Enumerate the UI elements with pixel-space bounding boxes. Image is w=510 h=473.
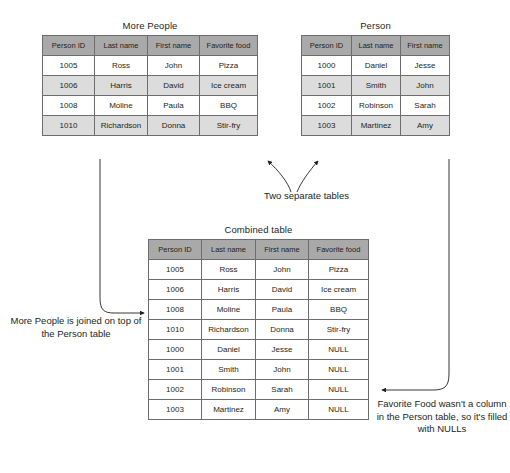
- arrow-person-to-combined: [382, 159, 449, 390]
- table-cell: John: [256, 259, 309, 279]
- table-cell: BBQ: [309, 299, 369, 319]
- arrow-more-people-to-combined: [100, 159, 144, 313]
- table-row: 1003 Martinez Amy NULL: [149, 399, 369, 419]
- table-cell: John: [256, 359, 309, 379]
- column-header: First name: [256, 239, 309, 259]
- table-row: 1003 Martinez Amy: [302, 115, 450, 135]
- table-cell: Amy: [256, 399, 309, 419]
- table-cell: 1005: [43, 55, 95, 75]
- arrow-to-person: [297, 161, 318, 192]
- table-cell: 1002: [302, 95, 352, 115]
- table-cell: Paula: [148, 95, 200, 115]
- table-person: Person Person ID Last name First name 10…: [301, 20, 450, 136]
- table-cell: John: [148, 55, 200, 75]
- table-row: 1002 Robinson Sarah: [302, 95, 450, 115]
- column-header: Last name: [95, 35, 148, 55]
- table-cell: 1008: [43, 95, 95, 115]
- column-header: First name: [401, 35, 450, 55]
- table-cell: BBQ: [200, 95, 258, 115]
- table-cell: Sarah: [401, 95, 450, 115]
- column-header: Favorite food: [309, 239, 369, 259]
- table-cell: 1000: [149, 339, 202, 359]
- table-cell: 1001: [302, 75, 352, 95]
- table-cell: John: [401, 75, 450, 95]
- table-cell: David: [256, 279, 309, 299]
- table-cell: Richardson: [95, 115, 148, 135]
- table-cell: Ice cream: [309, 279, 369, 299]
- table-cell: Smith: [352, 75, 401, 95]
- table-cell: Ross: [95, 55, 148, 75]
- table-cell: 1002: [149, 379, 202, 399]
- table-cell: NULL: [309, 399, 369, 419]
- table-row: 1010 Richardson Donna Stir-fry: [149, 319, 369, 339]
- table-cell: Pizza: [309, 259, 369, 279]
- table-cell: Harris: [202, 279, 256, 299]
- table-cell: 1006: [43, 75, 95, 95]
- table-cell: 1008: [149, 299, 202, 319]
- table-cell: 1006: [149, 279, 202, 299]
- table-title-more-people: More People: [42, 20, 258, 31]
- table-title-person: Person: [301, 20, 450, 31]
- column-header: Person ID: [43, 35, 95, 55]
- table-row: 1006 Harris David Ice cream: [43, 75, 258, 95]
- more-people-grid: Person ID Last name First name Favorite …: [42, 35, 258, 136]
- table-header-row: Person ID Last name First name Favorite …: [149, 239, 369, 259]
- table-cell: Moline: [202, 299, 256, 319]
- table-cell: Ross: [202, 259, 256, 279]
- table-cell: 1005: [149, 259, 202, 279]
- table-cell: Harris: [95, 75, 148, 95]
- person-grid: Person ID Last name First name 1000 Dani…: [301, 35, 450, 136]
- diagram-canvas: More People Person ID Last name First na…: [0, 0, 510, 473]
- column-header: Last name: [202, 239, 256, 259]
- table-cell: Amy: [401, 115, 450, 135]
- table-cell: Martinez: [202, 399, 256, 419]
- table-cell: Ice cream: [200, 75, 258, 95]
- table-cell: Stir-fry: [309, 319, 369, 339]
- table-cell: NULL: [309, 379, 369, 399]
- table-cell: Moline: [95, 95, 148, 115]
- combined-grid: Person ID Last name First name Favorite …: [148, 239, 369, 420]
- table-cell: 1000: [302, 55, 352, 75]
- table-combined: Combined table Person ID Last name First…: [148, 224, 369, 420]
- column-header: Last name: [352, 35, 401, 55]
- column-header: Person ID: [149, 239, 202, 259]
- annotation-two-separate-tables: Two separate tables: [234, 190, 379, 203]
- table-row: 1006 Harris David Ice cream: [149, 279, 369, 299]
- table-cell: Jesse: [401, 55, 450, 75]
- table-row: 1001 Smith John: [302, 75, 450, 95]
- annotation-null-explanation: Favorite Food wasn't a column in the Per…: [374, 398, 510, 436]
- table-row: 1000 Daniel Jesse NULL: [149, 339, 369, 359]
- annotation-join-explanation: More People is joined on top of the Pers…: [6, 315, 146, 340]
- table-cell: NULL: [309, 339, 369, 359]
- table-cell: Donna: [256, 319, 309, 339]
- table-cell: 1003: [149, 399, 202, 419]
- table-cell: 1001: [149, 359, 202, 379]
- column-header: Favorite food: [200, 35, 258, 55]
- table-cell: Richardson: [202, 319, 256, 339]
- table-cell: David: [148, 75, 200, 95]
- table-cell: Paula: [256, 299, 309, 319]
- table-cell: 1003: [302, 115, 352, 135]
- table-cell: Stir-fry: [200, 115, 258, 135]
- column-header: First name: [148, 35, 200, 55]
- table-row: 1008 Moline Paula BBQ: [149, 299, 369, 319]
- table-cell: 1010: [43, 115, 95, 135]
- table-cell: Smith: [202, 359, 256, 379]
- table-cell: 1010: [149, 319, 202, 339]
- table-cell: Daniel: [202, 339, 256, 359]
- table-cell: Martinez: [352, 115, 401, 135]
- table-row: 1001 Smith John NULL: [149, 359, 369, 379]
- table-row: 1005 Ross John Pizza: [43, 55, 258, 75]
- table-cell: NULL: [309, 359, 369, 379]
- table-cell: Sarah: [256, 379, 309, 399]
- table-cell: Robinson: [352, 95, 401, 115]
- table-row: 1010 Richardson Donna Stir-fry: [43, 115, 258, 135]
- table-cell: Pizza: [200, 55, 258, 75]
- table-header-row: Person ID Last name First name Favorite …: [43, 35, 258, 55]
- table-more-people: More People Person ID Last name First na…: [42, 20, 258, 136]
- arrow-to-more-people: [268, 161, 291, 192]
- column-header: Person ID: [302, 35, 352, 55]
- table-row: 1008 Moline Paula BBQ: [43, 95, 258, 115]
- table-row: 1002 Robinson Sarah NULL: [149, 379, 369, 399]
- table-row: 1000 Daniel Jesse: [302, 55, 450, 75]
